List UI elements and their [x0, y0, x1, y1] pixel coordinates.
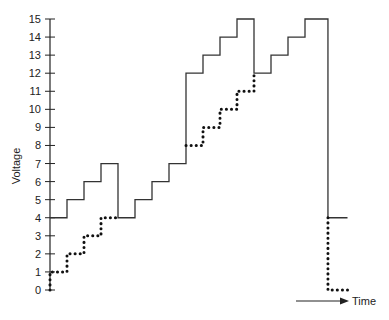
voltage-time-chart: 0123456789101112131415 Time Voltage: [0, 0, 389, 320]
y-tick-label: 11: [30, 85, 41, 97]
y-tick-label: 10: [29, 103, 41, 115]
y-tick-label: 15: [29, 13, 41, 25]
y-tick-label: 7: [35, 158, 41, 170]
y-tick-label: 1: [35, 266, 41, 278]
y-tick-label: 12: [29, 67, 41, 79]
x-axis-title: Time: [352, 295, 376, 307]
y-tick-label: 4: [35, 212, 41, 224]
y-tick-label: 13: [29, 49, 41, 61]
y-tick-label: 6: [35, 176, 41, 188]
y-tick-label: 0: [35, 284, 41, 296]
y-tick-label: 5: [35, 194, 41, 206]
time-arrow: [296, 298, 349, 305]
y-axis-title: Voltage: [10, 148, 22, 185]
solid-staircase-series: [50, 19, 348, 218]
y-tick-label: 2: [35, 248, 41, 260]
y-tick-label: 3: [35, 230, 41, 242]
y-tick-label: 8: [35, 139, 41, 151]
y-tick-label: 9: [35, 121, 41, 133]
y-axis: 0123456789101112131415: [29, 13, 55, 296]
y-tick-label: 14: [29, 31, 41, 43]
